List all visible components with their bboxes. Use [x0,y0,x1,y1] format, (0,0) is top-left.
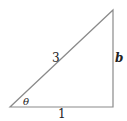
hypotenuse-label: 3 [52,51,60,65]
right-triangle-diagram: 3 1 b θ [0,0,127,121]
opposite-label: b [115,51,123,65]
adjacent-label: 1 [58,107,66,121]
angle-theta-label: θ [23,96,29,107]
triangle-shape [10,10,113,107]
